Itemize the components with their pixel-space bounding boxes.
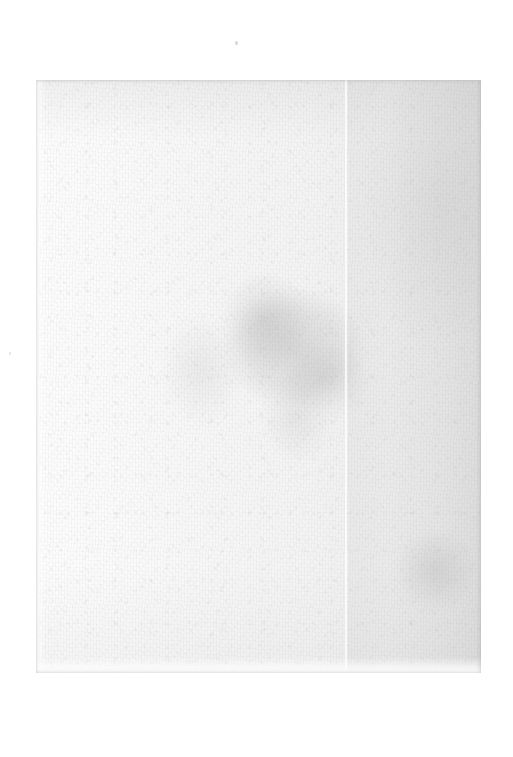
stray-speck-top bbox=[235, 41, 238, 45]
page-text-content bbox=[36, 80, 481, 673]
stray-speck-mid-left bbox=[9, 352, 11, 355]
scan-viewport bbox=[0, 0, 513, 757]
scanned-page-sheet bbox=[36, 80, 481, 673]
